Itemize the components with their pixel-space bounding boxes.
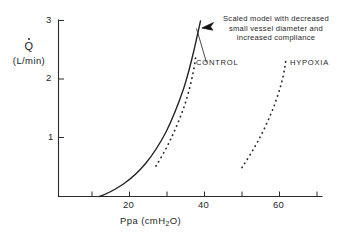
y-axis-units: (L/min): [6, 55, 52, 66]
q-dot-symbol: Q: [25, 41, 34, 52]
x-axis-title: Ppa (cmH2O): [120, 215, 181, 227]
y-tick-label-2: 2: [46, 72, 51, 83]
x-tick-label-20: 20: [123, 199, 134, 210]
scaled-model-annotation: Scaled model with decreased small vessel…: [205, 14, 347, 43]
y-tick-label-1: 1: [48, 131, 53, 142]
annotation-line-1: Scaled model with decreased: [205, 14, 347, 24]
annotation-line-2: small vessel diameter and: [205, 24, 347, 34]
x-tick-label-40: 40: [198, 199, 209, 210]
y-axis-title: Q (L/min): [6, 36, 52, 66]
overdot-icon: [28, 38, 30, 40]
y-axis-symbol-text: Q: [25, 40, 34, 52]
figure-panel: 3 2 1 20 40 60 Q (L/min) Ppa (cmH2O) Sca…: [0, 0, 349, 239]
x-tick-label-60: 60: [273, 199, 284, 210]
x-axis-title-suffix: O): [170, 215, 181, 226]
x-axis-title-prefix: Ppa (cmH: [120, 215, 165, 226]
control-series-label: CONTROL: [196, 58, 238, 67]
annotation-line-3: increased compliance: [205, 33, 347, 43]
y-tick-label-3: 3: [46, 14, 51, 25]
hypoxia-series-label: HYPOXIA: [290, 58, 329, 67]
curve-hypoxia: [242, 58, 286, 168]
curve-scaled-model: [100, 21, 201, 197]
